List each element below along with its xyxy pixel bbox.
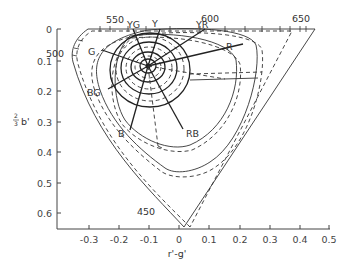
spectrum-locus-dashed [77, 31, 292, 227]
x-tick-label: 0.1 [201, 234, 216, 245]
chromaticity-diagram: 0 0.1 0.2 0.3 0.4 0.5 0.6 2 3 b' -0.3 -0… [0, 0, 346, 264]
hue-label-bg: BG [87, 87, 101, 98]
middle-contour-solid [115, 34, 237, 147]
y-tick-label: 0.2 [37, 86, 52, 97]
x-axis: -0.3 -0.2 -0.1 0 0.1 0.2 0.3 0.4 0.5 r'-… [57, 225, 337, 259]
wavelength-label-650: 650 [292, 13, 310, 24]
x-tick-label: 0.4 [292, 234, 307, 245]
hue-label-b: B [118, 128, 125, 139]
outer-contour-dashed [92, 33, 263, 177]
hue-label-g: G [88, 46, 95, 57]
y-tick-label: 0.5 [37, 178, 52, 189]
svg-text:3: 3 [14, 120, 18, 127]
x-tick-label: 0.3 [262, 234, 277, 245]
svg-text:2: 2 [14, 112, 18, 119]
wavelength-label-450: 450 [137, 206, 155, 217]
x-tick-label: -0.3 [80, 234, 99, 245]
svg-text:b': b' [21, 116, 30, 127]
hue-label-yr: YR [195, 19, 209, 30]
y-axis-label: 2 3 b' [13, 112, 30, 127]
x-tick-label: -0.2 [110, 234, 129, 245]
y-tick-label: 0.6 [37, 208, 52, 219]
wavelength-label-550: 550 [106, 14, 124, 25]
y-tick-label: 0.4 [37, 147, 52, 158]
x-tick-label: -0.1 [140, 234, 159, 245]
x-tick-label: 0 [176, 234, 182, 245]
x-tick-label: 0.5 [321, 234, 336, 245]
x-tick-label: 0.2 [232, 234, 247, 245]
middle-contour-dashed [112, 37, 241, 151]
hue-label-yg: YG [126, 19, 140, 30]
y-tick-label: 0 [46, 24, 52, 35]
hue-label-y: Y [151, 18, 158, 29]
hue-label-rb: RB [186, 128, 199, 139]
x-axis-label: r'-g' [168, 248, 187, 259]
y-tick-label: 0.3 [37, 117, 52, 128]
hue-label-r: R [226, 41, 233, 52]
wavelength-label-500: 500 [46, 48, 64, 59]
